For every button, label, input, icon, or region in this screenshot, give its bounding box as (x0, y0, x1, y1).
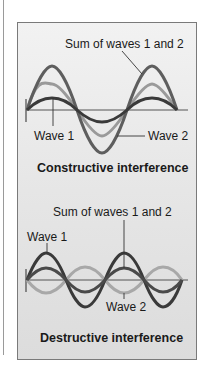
destructive-title: Destructive interference (40, 331, 183, 345)
interference-diagram: Sum of waves 1 and 2 Wave 1 Wave 2 Const… (0, 0, 208, 372)
destructive-wave1-label: Wave 1 (27, 230, 68, 244)
destructive-sum-label: Sum of waves 1 and 2 (53, 205, 172, 219)
constructive-sum-label: Sum of waves 1 and 2 (65, 37, 184, 51)
destructive-interference-diagram: Sum of waves 1 and 2 Wave 1 Wave 2 Destr… (26, 205, 188, 345)
constructive-wave1-label: Wave 1 (34, 129, 75, 143)
constructive-title: Constructive interference (37, 161, 188, 175)
constructive-interference-diagram: Sum of waves 1 and 2 Wave 1 Wave 2 Const… (26, 37, 189, 175)
destructive-wave2-label: Wave 2 (106, 300, 147, 314)
constructive-sum-leader (122, 51, 142, 74)
constructive-wave2-label: Wave 2 (148, 129, 189, 143)
